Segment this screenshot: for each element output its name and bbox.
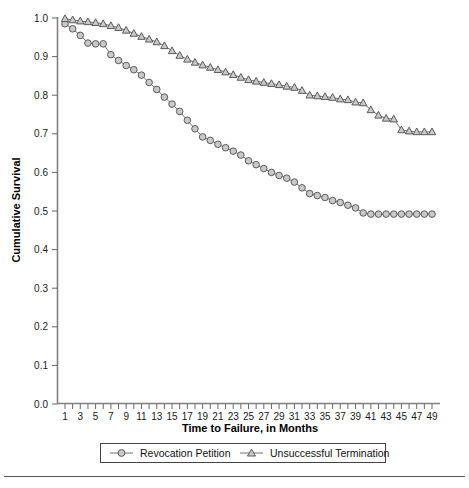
data-point-circle [92,41,99,48]
data-point-circle [406,211,413,218]
data-point-circle [123,62,130,69]
data-point-circle [100,41,107,48]
x-tick-label: 11 [136,411,147,422]
data-point-circle [161,94,168,101]
x-tick-label: 19 [197,411,209,422]
data-point-circle [253,161,260,168]
y-tick-label: 0.8 [34,90,48,101]
data-point-circle [398,211,405,218]
legend-label-unsuccessful-termination: Unsuccessful Termination [270,447,390,459]
legend-label-revocation-petition: Revocation Petition [140,447,231,459]
data-point-circle [314,192,321,199]
data-point-circle [360,210,367,217]
data-point-circle [184,117,191,124]
y-tick-label: 0.5 [34,206,48,217]
data-point-circle [176,108,183,115]
x-tick-label: 29 [274,411,286,422]
x-tick-label: 49 [426,411,438,422]
data-point-circle [337,199,344,206]
x-tick-label: 45 [396,411,408,422]
data-point-circle [108,51,115,58]
data-point-circle [306,190,313,197]
data-point-circle [199,134,206,141]
x-tick-label: 31 [289,411,301,422]
data-point-circle [153,86,160,93]
y-tick-label: 0.7 [34,128,48,139]
x-tick-label: 35 [319,411,331,422]
y-tick-label: 0.1 [34,360,48,371]
data-point-circle [138,72,145,79]
data-point-circle [268,169,275,176]
data-point-circle [131,66,138,73]
x-tick-label: 33 [304,411,316,422]
chart-legend: Revocation Petition Unsuccessful Termina… [101,444,390,463]
data-point-circle [421,211,428,218]
x-tick-label: 13 [151,411,163,422]
x-tick-label: 15 [166,411,178,422]
data-point-circle [238,152,245,159]
data-point-circle [345,202,352,209]
data-point-circle [368,211,375,218]
data-point-circle [383,211,390,218]
data-point-circle [283,175,290,182]
data-point-circle [276,172,283,179]
x-tick-label: 17 [182,411,194,422]
y-tick-label: 0.0 [34,399,48,410]
data-point-circle [291,179,298,186]
data-point-circle [222,144,229,151]
y-tick-label: 0.4 [34,244,48,255]
data-point-circle [390,211,397,218]
x-axis-label: Time to Failure, in Months [182,422,318,434]
x-tick-label: 37 [335,411,347,422]
data-point-circle [115,57,122,64]
data-point-circle [352,205,359,212]
data-point-circle [207,137,214,144]
data-point-circle [146,79,153,86]
data-point-circle [322,194,329,201]
x-tick-label: 1 [62,411,68,422]
y-tick-label: 0.6 [34,167,48,178]
chart-canvas: 0.00.10.20.30.40.50.60.70.80.91.0 135791… [0,0,469,488]
y-tick-label: 0.9 [34,51,48,62]
x-tick-label: 43 [381,411,393,422]
y-tick-label: 1.0 [34,13,48,24]
data-point-circle [375,211,382,218]
x-tick-label: 7 [108,411,114,422]
x-tick-label: 5 [93,411,99,422]
legend-circle-icon [118,450,125,457]
x-tick-label: 23 [228,411,240,422]
x-tick-label: 25 [243,411,255,422]
data-point-circle [215,141,222,148]
x-tick-label: 3 [78,411,84,422]
data-point-circle [299,185,306,192]
data-point-circle [260,165,267,172]
data-point-circle [245,158,252,165]
data-point-circle [329,197,336,204]
data-point-circle [85,40,92,47]
y-tick-label: 0.2 [34,321,48,332]
x-tick-label: 47 [411,411,423,422]
y-axis-label: Cumulative Survival [10,157,22,262]
data-point-circle [192,125,199,132]
x-tick-label: 9 [123,411,129,422]
data-point-circle [69,26,76,33]
x-tick-label: 39 [350,411,362,422]
y-tick-label: 0.3 [34,283,48,294]
x-tick-label: 41 [365,411,377,422]
data-point-circle [413,211,420,218]
data-point-circle [169,101,176,108]
survival-chart-figure: 0.00.10.20.30.40.50.60.70.80.91.0 135791… [0,0,469,488]
x-tick-label: 27 [258,411,270,422]
data-point-circle [77,32,84,39]
data-point-circle [230,148,237,155]
data-point-circle [429,211,436,218]
x-tick-label: 21 [212,411,224,422]
